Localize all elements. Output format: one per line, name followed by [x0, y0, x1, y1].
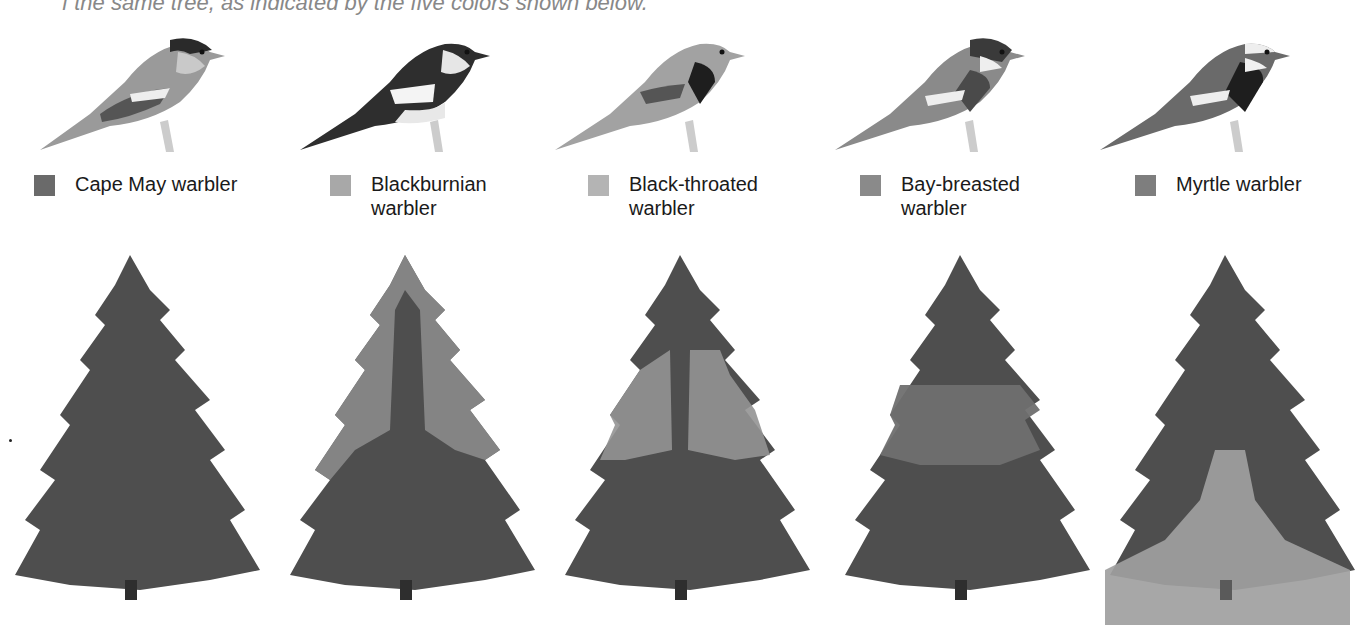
species-column-cape-may: Cape May warbler	[10, 0, 280, 630]
legend-label-line: Bay-breasted	[901, 172, 1020, 196]
legend-blackburnian: Blackburnian warbler	[330, 172, 487, 220]
legend-label-line: Black-throated	[629, 172, 758, 196]
spruce-tree-bay-breasted	[840, 250, 1100, 630]
species-column-blackburnian: Blackburnian warbler	[285, 0, 555, 630]
swatch-bay-breasted	[860, 175, 881, 196]
spruce-tree-black-throated	[560, 250, 820, 630]
legend-myrtle: Myrtle warbler	[1135, 172, 1302, 196]
warbler-black-throated-icon	[550, 22, 750, 162]
legend-label-line: Myrtle warbler	[1176, 172, 1302, 196]
warbler-blackburnian-icon	[295, 22, 495, 162]
spruce-tree-cape-may	[10, 250, 270, 630]
legend-black-throated: Black-throated warbler	[588, 172, 758, 220]
legend-cape-may: Cape May warbler	[34, 172, 237, 196]
swatch-myrtle	[1135, 175, 1156, 196]
legend-label-line: warbler	[629, 196, 758, 220]
legend-label-line: Cape May warbler	[75, 172, 237, 196]
zone-bay-breasted	[880, 385, 1040, 465]
legend-label-line: warbler	[901, 196, 1020, 220]
legend-label-line: Blackburnian	[371, 172, 487, 196]
legend-bay-breasted: Bay-breasted warbler	[860, 172, 1020, 220]
warbler-bay-breasted-icon	[830, 22, 1030, 162]
species-column-myrtle: Myrtle warbler	[1100, 0, 1370, 630]
warbler-myrtle-icon	[1095, 22, 1295, 162]
warbler-cape-may-icon	[30, 22, 230, 162]
species-column-black-throated: Black-throated warbler	[560, 0, 830, 630]
spruce-tree-blackburnian	[285, 250, 545, 630]
legend-label-line: warbler	[371, 196, 487, 220]
spruce-tree-myrtle	[1105, 250, 1365, 630]
swatch-blackburnian	[330, 175, 351, 196]
species-column-bay-breasted: Bay-breasted warbler	[840, 0, 1110, 630]
swatch-black-throated	[588, 175, 609, 196]
swatch-cape-may	[34, 175, 55, 196]
